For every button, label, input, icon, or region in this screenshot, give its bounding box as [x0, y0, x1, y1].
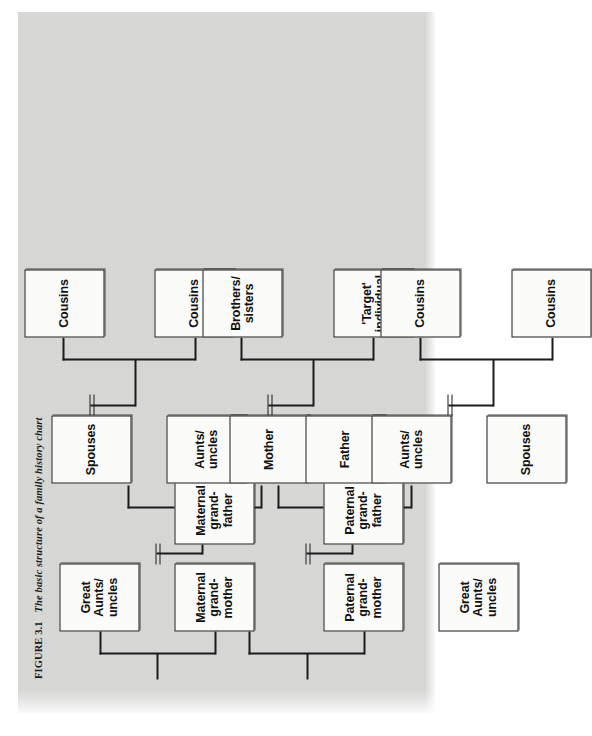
connector-subject-descent-stem [269, 405, 314, 407]
connector-paternal-greataunts-stem [307, 654, 309, 680]
connector-paternal-cousin-arm-1 [420, 338, 422, 361]
connector-maternal-greataunts-stem [157, 654, 159, 680]
connector-paternal-greataunts-arm-bottom [364, 631, 366, 655]
connector-paternal-cousin-arm-2 [552, 338, 554, 361]
node-paternal-grandfather[interactable]: Paternal grand- father [324, 477, 404, 545]
connector-paternal-child-arm-aunts [411, 486, 413, 509]
connector-paternal-cousins-stem [449, 405, 494, 407]
connector-maternal-child-arm-mother [261, 486, 263, 509]
connector-paternal-cousins-run [493, 360, 495, 407]
connector-maternal-cousins-run [135, 360, 137, 407]
connector-maternal-greataunts-arm-top [100, 631, 102, 655]
node-great-aunts-uncles-paternal[interactable]: Great Aunts/ uncles [439, 564, 519, 632]
page-edge-fade-right [425, 12, 435, 713]
connector-paternal-child-arm-father [278, 486, 280, 509]
node-cousins-paternal-2[interactable]: Cousins [512, 270, 592, 338]
node-brothers-sisters[interactable]: Brothers/ sisters [203, 270, 283, 338]
node-cousins-maternal-1[interactable]: Cousins [25, 270, 105, 338]
connector-paternal-descent-stem [307, 553, 353, 555]
connector-subject-arm-target [373, 338, 375, 361]
node-spouses-maternal[interactable]: Spouses [52, 416, 132, 484]
connector-maternal-cousins-stem [91, 405, 136, 407]
connector-maternal-descent-stem [157, 553, 203, 555]
node-mother[interactable]: Mother [230, 416, 310, 484]
connector-paternal-greataunts-bracket [249, 653, 365, 655]
connector-paternal-cousins-bracket [420, 359, 553, 361]
node-spouses-paternal[interactable]: Spouses [487, 416, 567, 484]
connector-paternal-greataunts-arm-top [249, 631, 251, 655]
connector-maternal-cousins-bracket [63, 359, 196, 361]
node-cousins-paternal-1[interactable]: Cousins [381, 270, 461, 338]
connector-maternal-child-arm-aunts [128, 486, 130, 509]
family-history-chart: Great Aunts/ uncles Maternal grand- moth… [40, 8, 425, 698]
connector-maternal-greataunts-arm-bottom [215, 631, 217, 655]
node-aunts-uncles-paternal[interactable]: Aunts/ uncles [372, 416, 452, 484]
connector-subject-bracket [241, 359, 374, 361]
connector-subject-arm-siblings [241, 338, 243, 361]
connector-maternal-greataunts-bracket [100, 653, 216, 655]
node-maternal-grandfather[interactable]: Maternal grand- father [175, 477, 255, 545]
connector-maternal-cousin-arm-2 [195, 338, 197, 361]
node-maternal-grandmother[interactable]: Maternal grand- mother [175, 564, 255, 632]
node-paternal-grandmother[interactable]: Paternal grand- mother [324, 564, 404, 632]
connector-maternal-cousin-arm-1 [63, 338, 65, 361]
node-great-aunts-uncles-maternal[interactable]: Great Aunts/ uncles [60, 564, 140, 632]
connector-subject-descent-run [313, 360, 315, 407]
